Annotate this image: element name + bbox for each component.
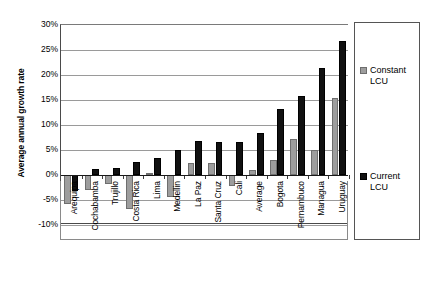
category-label: Cali	[225, 181, 246, 195]
category-label: Santa Cruz	[204, 181, 225, 195]
x-axis-tick	[349, 175, 350, 179]
bar-current-lcu	[257, 133, 264, 175]
category-label-text: Trujillo	[111, 181, 120, 205]
category-label-text: Santa Cruz	[214, 181, 223, 223]
category-label: Managua	[307, 181, 328, 195]
category-label-text: La Paz	[194, 181, 203, 207]
bar-current-lcu	[298, 96, 305, 176]
zero-baseline	[61, 175, 348, 176]
bar-constant-lcu	[332, 98, 339, 176]
category-label: Lima	[142, 181, 163, 195]
category-label: Cochabamba	[81, 181, 102, 195]
y-tick-label: 30%	[26, 20, 58, 29]
bar-current-lcu	[319, 68, 326, 176]
category-label: Costa Rica	[122, 181, 143, 195]
bar-current-lcu	[339, 41, 346, 176]
category-label-text: Medellin	[173, 181, 182, 212]
category-label-text: Managua	[317, 181, 326, 216]
y-tick-label: -5%	[26, 195, 58, 204]
y-tick-label: 25%	[26, 45, 58, 54]
y-tick-label: 20%	[26, 70, 58, 79]
category-label: Bogota	[266, 181, 287, 195]
bar-current-lcu	[154, 158, 161, 175]
legend-entry[interactable]: Constant LCU	[360, 65, 420, 86]
bar-constant-lcu	[208, 163, 215, 175]
y-axis-title-text: Average annual growth rate	[16, 68, 26, 177]
bar-constant-lcu	[188, 163, 195, 175]
category-label: La Paz	[183, 181, 204, 195]
legend-entry[interactable]: Current LCU	[360, 171, 420, 192]
category-label: Uruguay	[327, 181, 348, 195]
category-label-text: Arequipa	[70, 181, 79, 214]
category-label-text: Cali	[235, 181, 244, 195]
bar-constant-lcu	[311, 150, 318, 175]
bar-current-lcu	[236, 142, 243, 176]
category-label-text: Lima	[153, 181, 162, 199]
category-label: Pernambuco	[286, 181, 307, 195]
category-label-text: Bogota	[276, 181, 285, 207]
y-tick-label: 15%	[26, 95, 58, 104]
bar-current-lcu	[133, 162, 140, 175]
x-axis-category-labels: ArequipaCochabambaTrujilloCosta RicaLima…	[60, 181, 348, 261]
bar-current-lcu	[175, 150, 182, 175]
legend-label: Constant LCU	[370, 65, 406, 86]
bar-chart: Average annual growth rate 30%25%20%15%1…	[0, 0, 427, 282]
category-label: Medellin	[163, 181, 184, 195]
bar-current-lcu	[277, 109, 284, 175]
legend-label: Current LCU	[370, 171, 400, 192]
y-tick-label: 10%	[26, 120, 58, 129]
category-label-text: Pernambuco	[297, 181, 306, 228]
category-label: Trujillo	[101, 181, 122, 195]
bar-current-lcu	[113, 168, 120, 175]
legend-swatch-constant-icon	[360, 67, 367, 74]
y-tick-label: -10%	[26, 220, 58, 229]
chart-legend: Constant LCUCurrent LCU	[354, 22, 420, 240]
category-label: Arequipa	[60, 181, 81, 195]
category-label-text: Cochabamba	[91, 181, 100, 231]
y-tick-label: 0%	[26, 170, 58, 179]
category-label-text: Costa Rica	[132, 181, 141, 222]
category-label-text: Average	[255, 181, 264, 212]
y-tick-label: 5%	[26, 145, 58, 154]
y-axis-tick-labels: 30%25%20%15%10%5%0%-5%-10%	[26, 24, 58, 224]
category-label: Average	[245, 181, 266, 195]
category-label-text: Uruguay	[338, 181, 347, 212]
bar-current-lcu	[195, 141, 202, 175]
legend-swatch-current-icon	[360, 173, 367, 180]
bar-constant-lcu	[290, 139, 297, 175]
bar-current-lcu	[216, 142, 223, 176]
bar-constant-lcu	[270, 160, 277, 175]
